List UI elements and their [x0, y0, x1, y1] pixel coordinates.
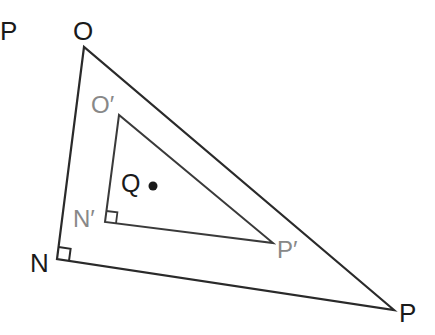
vertex-label-o-prime: O′: [91, 91, 115, 118]
center-label-q: Q: [121, 169, 140, 197]
vertex-label-p-prime: P′: [277, 236, 298, 263]
vertex-label-o: O: [73, 16, 93, 46]
center-point-q-icon: [149, 182, 158, 191]
stray-label-p: P: [0, 16, 17, 46]
diagram-canvas: P O N P O′ N′ P′ Q: [0, 0, 435, 335]
outer-triangle: [57, 47, 394, 310]
vertex-label-n-prime: N′: [73, 205, 95, 232]
geometry-diagram: P O N P O′ N′ P′ Q: [0, 0, 435, 335]
vertex-label-p: P: [399, 298, 416, 328]
vertex-label-n: N: [30, 248, 49, 278]
